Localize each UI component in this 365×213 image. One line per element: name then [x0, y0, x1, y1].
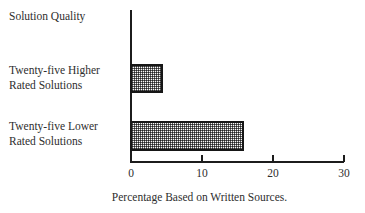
- x-tick-mark-30: [343, 155, 345, 162]
- chart-figure: Solution Quality Twenty-five Higher Rate…: [0, 0, 365, 213]
- x-axis-line: [130, 161, 344, 163]
- x-tick-label-20: 20: [267, 166, 279, 180]
- bar-lower-rated-solutions: [130, 121, 244, 151]
- bar-higher-rated-solutions: [130, 64, 163, 93]
- x-tick-mark-20: [272, 155, 274, 162]
- x-tick-mark-10: [201, 155, 203, 162]
- x-tick-label-30: 30: [338, 166, 350, 180]
- plot-area: 0 10 20 30: [0, 0, 365, 213]
- x-tick-mark-0: [130, 155, 132, 162]
- x-axis-title: Percentage Based on Written Sources.: [0, 190, 365, 204]
- x-tick-label-10: 10: [196, 166, 208, 180]
- x-tick-label-0: 0: [128, 166, 134, 180]
